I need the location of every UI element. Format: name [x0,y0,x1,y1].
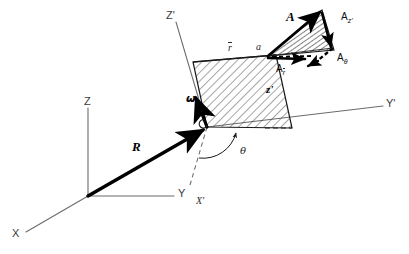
vector-A-r-arrow [268,58,305,59]
axis-X-line [26,196,88,232]
vector-label-A-z: Az' [341,12,353,24]
vector-A-theta-arrow [308,61,318,66]
vector-label-A: A [286,10,295,23]
axis-label-X: X [12,228,19,239]
vector-label-R: R [132,140,141,153]
A-r-sub: r [283,68,285,76]
vector-A-r-dash [272,56,312,57]
diagram-canvas [0,0,409,254]
A-z-base: A [341,11,348,22]
vector-label-A-r: Ar [276,64,285,76]
kinematics-diagram: Z Y X Z' Y' X' z' r a ω R A Az' Aθ Ar θ [0,0,409,254]
vector-label-omega: ω [186,93,196,104]
label-r-bar: r [228,42,232,54]
axis-label-Zprime: Z' [166,10,175,21]
axis-label-Y: Y [178,188,185,199]
A-z-sub: z' [348,17,353,24]
A-r-base: A [276,63,283,74]
A-theta-base: A [337,52,344,63]
A-theta-sub: θ [344,58,348,65]
vector-label-A-theta: Aθ [337,53,347,65]
vector-R-arrow [88,130,203,196]
axis-label-Yprime: Y' [386,98,395,109]
angle-label-theta: θ [240,146,246,156]
axis-label-z-local: z' [266,84,273,95]
inertial-axes [26,108,174,232]
axis-label-Xprime: X' [196,196,204,206]
label-point-a: a [256,42,261,52]
axis-label-Z: Z [84,96,91,107]
